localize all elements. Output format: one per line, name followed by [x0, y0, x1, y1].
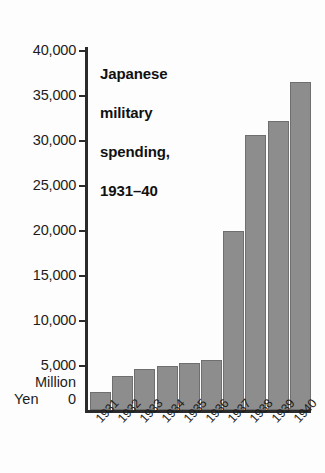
y-tick-label-5000: 5,000 — [41, 357, 76, 373]
chart-figure: Japanese military spending, 1931–40 40,0… — [0, 0, 325, 473]
bar-1937[interactable] — [223, 231, 244, 410]
y-tick-label-20000: 20,000 — [33, 222, 76, 238]
y-tick-label-35000: 35,000 — [33, 87, 76, 103]
y-tick-mark-35000 — [79, 95, 86, 97]
y-tick-label-25000: 25,000 — [33, 177, 76, 193]
y-tick-label-0: 0 — [68, 391, 76, 408]
y-tick-label-10000: 10,000 — [33, 312, 76, 328]
y-axis-unit-line-2: Yen — [14, 391, 38, 408]
y-tick-mark-25000 — [79, 185, 86, 187]
y-tick-mark-15000 — [79, 275, 86, 277]
y-tick-label-40000: 40,000 — [33, 42, 76, 58]
y-tick-mark-10000 — [79, 320, 86, 322]
y-tick-label-30000: 30,000 — [33, 132, 76, 148]
plot-area — [88, 50, 310, 410]
y-tick-label-15000: 15,000 — [33, 267, 76, 283]
bar-1938[interactable] — [245, 135, 266, 410]
y-tick-mark-30000 — [79, 140, 86, 142]
y-tick-mark-5000 — [79, 365, 86, 367]
y-axis-unit-label: Million Yen 0 — [14, 374, 76, 408]
bar-1940[interactable] — [290, 82, 311, 410]
bar-1939[interactable] — [268, 121, 289, 410]
y-tick-mark-20000 — [79, 230, 86, 232]
y-axis-unit-line-1: Million — [14, 374, 76, 391]
y-tick-mark-40000 — [79, 50, 86, 52]
